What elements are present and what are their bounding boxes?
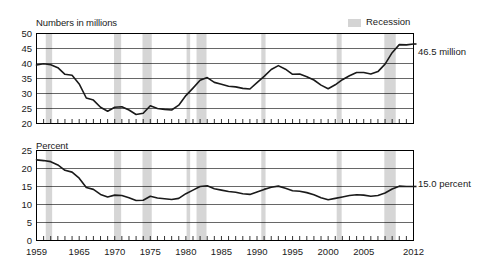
ytick-label: 0 — [8, 235, 32, 246]
xtick-label: 1985 — [205, 246, 237, 257]
xtick-label: 2000 — [312, 246, 344, 257]
recession-band — [187, 151, 191, 241]
recession-band — [46, 151, 52, 241]
recession-band — [197, 151, 207, 241]
xtick-label: 1965 — [63, 246, 95, 257]
xtick-label: 1970 — [99, 246, 131, 257]
ytick-label: 35 — [8, 73, 32, 84]
panel-bottom — [37, 151, 417, 241]
xtick-label: 1990 — [241, 246, 273, 257]
ytick-label: 25 — [8, 103, 32, 114]
xtick-label: 1995 — [277, 246, 309, 257]
ytick-label: 20 — [8, 118, 32, 129]
xtick-label: 2012 — [398, 246, 430, 257]
xtick-label: 1959 — [21, 246, 53, 257]
ytick-label: 30 — [8, 88, 32, 99]
poverty-chart-figure: Recession Numbers in millions 46.5 milli… — [0, 0, 494, 268]
ytick-label: 20 — [8, 163, 32, 174]
ytick-label: 45 — [8, 43, 32, 54]
xtick-label: 1975 — [134, 246, 166, 257]
ytick-label: 40 — [8, 58, 32, 69]
ytick-label: 5 — [8, 217, 32, 228]
xtick-label: 2005 — [348, 246, 380, 257]
recession-band — [337, 151, 342, 241]
recession-band — [261, 151, 265, 241]
xtick-label: 1980 — [170, 246, 202, 257]
ytick-label: 15 — [8, 181, 32, 192]
ytick-label: 25 — [8, 145, 32, 156]
ytick-label: 50 — [8, 28, 32, 39]
recession-band — [384, 151, 395, 241]
ytick-label: 10 — [8, 199, 32, 210]
panel-top — [37, 34, 417, 124]
plot-canvas — [0, 0, 494, 268]
